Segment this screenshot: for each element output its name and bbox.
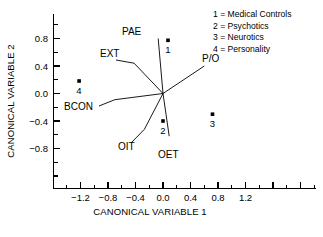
legend-item-2: 2 = Psychotics xyxy=(213,21,269,31)
leader-bcon xyxy=(99,100,115,106)
data-point-marker xyxy=(77,79,81,83)
legend-item-1: 1 = Medical Controls xyxy=(213,9,292,19)
x-tick-label: 0.4 xyxy=(184,192,197,203)
legend-item-4: 4 = Personality xyxy=(213,44,271,54)
y-axis-tick-labels: 0.8 0.4 0.0 −0.4 −0.8 xyxy=(29,33,48,154)
data-point-marker xyxy=(161,119,165,123)
plot-canvas: 0.8 0.4 0.0 −0.4 −0.8 xyxy=(0,0,323,237)
leader-oit xyxy=(131,129,144,143)
vector-pae xyxy=(158,39,163,94)
vector-label-pae: PAE xyxy=(122,26,142,37)
x-tick-label: −0.4 xyxy=(126,192,145,203)
x-axis-tick-labels: −1.2 −0.8 −0.4 0.0 0.4 0.8 1.2 xyxy=(71,192,252,203)
x-tick-label: 0.8 xyxy=(211,192,224,203)
x-tick-label: 0.0 xyxy=(156,192,169,203)
y-tick-label: −0.4 xyxy=(29,116,48,127)
y-axis-title: CANONICAL VARIABLE 2 xyxy=(5,44,16,157)
canonical-variables-biplot: 0.8 0.4 0.0 −0.4 −0.8 xyxy=(0,0,323,237)
y-tick-label: 0.4 xyxy=(35,61,48,72)
y-tick-label: −0.8 xyxy=(29,143,48,154)
vector-bcon xyxy=(115,94,163,100)
legend: 1 = Medical Controls 2 = Psychotics 3 = … xyxy=(213,9,292,54)
vector-group: PAE EXT BCON OIT OET P/O xyxy=(64,26,219,160)
vector-label-oet: OET xyxy=(158,149,179,160)
vector-ext xyxy=(134,63,163,93)
vector-oit xyxy=(144,94,163,130)
data-point-label: 3 xyxy=(210,118,215,129)
y-axis-ticks xyxy=(54,25,61,176)
y-tick-label: 0.0 xyxy=(35,88,48,99)
data-points: 1 2 3 4 xyxy=(76,39,215,137)
x-tick-label: −0.8 xyxy=(99,192,118,203)
x-axis-ticks xyxy=(67,182,314,189)
data-point-marker xyxy=(211,112,215,116)
leader-ext xyxy=(116,60,134,63)
vector-label-ext: EXT xyxy=(100,48,119,59)
data-point-label: 2 xyxy=(160,125,165,136)
x-axis-title: CANONICAL VARIABLE 1 xyxy=(93,206,206,217)
data-point-label: 4 xyxy=(76,85,81,96)
data-point-label: 1 xyxy=(165,44,170,55)
vector-label-oit: OIT xyxy=(118,141,135,152)
vector-label-po: P/O xyxy=(202,53,219,64)
vector-label-bcon: BCON xyxy=(64,101,93,112)
x-tick-label: −1.2 xyxy=(71,192,90,203)
legend-item-3: 3 = Neurotics xyxy=(213,32,264,42)
vector-po xyxy=(163,66,204,94)
x-tick-label: 1.2 xyxy=(239,192,252,203)
y-tick-label: 0.8 xyxy=(35,33,48,44)
data-point-marker xyxy=(166,39,170,43)
